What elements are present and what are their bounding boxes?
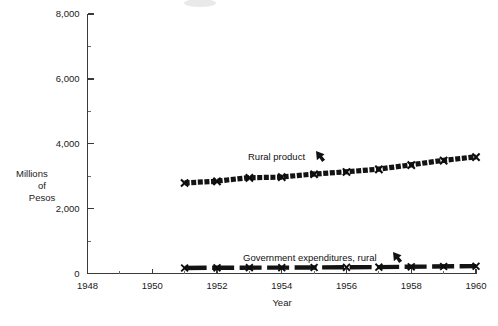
series-segment: [395, 164, 401, 170]
y-tick-label-8000: 8,000: [56, 8, 80, 19]
series-segment: [323, 170, 328, 176]
series-segment: [405, 264, 427, 269]
y-axis-title-line-1: Millions: [16, 168, 48, 179]
y-tick-label-4000: 4,000: [56, 138, 80, 149]
chart-figure: 02,0004,0006,0008,000 194819501952195419…: [0, 0, 498, 326]
line-chart-canvas: 02,0004,0006,0008,000 194819501952195419…: [0, 0, 498, 326]
series-segment: [363, 167, 368, 173]
y-tick-label-2000: 2,000: [56, 203, 80, 214]
series-segment: [257, 175, 262, 180]
series-segment: [267, 265, 289, 269]
y-axis-title-line-3: Pesos: [29, 192, 56, 203]
series-segment: [270, 175, 275, 180]
series-segment: [422, 160, 428, 166]
series-segment: [322, 265, 344, 270]
series-segment: [185, 266, 207, 271]
series-segment: [297, 173, 302, 179]
series-segment: [224, 177, 230, 183]
series-segment: [237, 176, 243, 182]
series-segment: [382, 165, 388, 171]
series-segment: [350, 265, 372, 270]
series-segment: [231, 176, 237, 182]
y-tick-label-0: 0: [74, 268, 79, 279]
series-segment: [369, 167, 374, 173]
series-segment: [290, 173, 295, 179]
annotation-label-rural-product: Rural product: [248, 151, 305, 162]
series-segment: [336, 170, 341, 176]
series-segment: [204, 179, 209, 184]
series-segment: [455, 156, 461, 162]
x-tick-label-1950: 1950: [142, 280, 163, 291]
y-axis-title-line-2: of: [38, 180, 46, 191]
series-segment: [448, 157, 454, 163]
x-axis-title: Year: [272, 297, 291, 308]
annotation-label-government-expenditures: Government expenditures, rural: [243, 252, 377, 263]
x-tick-label-1952: 1952: [206, 280, 227, 291]
series-segment: [264, 175, 269, 180]
series-segment: [198, 179, 203, 184]
series-segment: [428, 159, 434, 165]
series-segment: [303, 172, 308, 178]
x-tick-label-1958: 1958: [401, 280, 422, 291]
series-segment: [402, 163, 408, 169]
x-tick-label-1954: 1954: [271, 280, 292, 291]
series-segment: [191, 180, 196, 185]
series-segment: [462, 155, 468, 161]
series-segment: [330, 170, 335, 176]
series-segment: [356, 168, 361, 174]
series-segment: [415, 161, 421, 167]
series-segment: [389, 164, 395, 170]
y-tick-label-6000: 6,000: [56, 73, 80, 84]
x-tick-label-1956: 1956: [336, 280, 357, 291]
x-tick-label-1960: 1960: [465, 280, 486, 291]
x-tick-label-1948: 1948: [77, 280, 98, 291]
